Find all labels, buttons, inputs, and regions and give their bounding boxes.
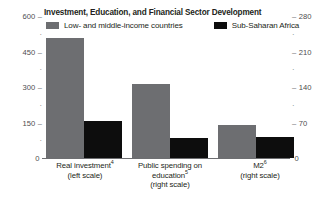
x-label-line2: education bbox=[152, 171, 185, 180]
y-axis-left-label-600: 600 bbox=[23, 12, 36, 21]
tick-dash-icon: – bbox=[292, 48, 296, 57]
y-axis-left-label-150: 150 bbox=[23, 119, 36, 128]
y-axis-left-label-450: 450 bbox=[23, 48, 36, 57]
tick-minor-icon: · bbox=[292, 101, 295, 110]
bar-group3-low-middle-income bbox=[218, 125, 256, 158]
x-axis-label-m2: M26 (right scale) bbox=[214, 161, 306, 180]
bar-group2-sub-saharan-africa bbox=[170, 138, 208, 158]
y-axis-left-tick-150: 150– bbox=[23, 119, 42, 128]
y-axis-left-label-300: 300 bbox=[23, 83, 36, 92]
tick-minor-icon: · bbox=[292, 65, 295, 74]
x-label-line1: M2 bbox=[253, 161, 264, 170]
bar-group3-sub-saharan-africa bbox=[256, 137, 294, 158]
x-axis-label-real-investment: Real investment4 (left scale) bbox=[36, 161, 134, 180]
y-axis-left-tick-450: 450– bbox=[23, 48, 42, 57]
y-axis-right-label-280: 280 bbox=[299, 12, 312, 21]
x-axis-label-public-spending-education: Public spending on education5 (right sca… bbox=[123, 161, 217, 190]
bar-group1-low-middle-income bbox=[46, 38, 84, 158]
chart-container: Investment, Education, and Financial Sec… bbox=[0, 0, 332, 207]
tick-dash-icon: – bbox=[292, 83, 296, 92]
y-axis-right-minortick-105: · bbox=[292, 101, 295, 110]
x-label-line2: (right scale) bbox=[240, 171, 279, 180]
plot-area bbox=[42, 16, 290, 158]
bar-group2-low-middle-income bbox=[132, 84, 170, 158]
x-label-footnote-marker: 6 bbox=[264, 159, 267, 165]
y-axis-right-label-140: 140 bbox=[299, 83, 312, 92]
x-label-line1: Public spending on bbox=[138, 161, 202, 170]
y-axis-right-label-210: 210 bbox=[299, 48, 312, 57]
y-axis-left-tick-600: 600– bbox=[23, 12, 42, 21]
tick-dash-icon: – bbox=[292, 12, 296, 21]
x-label-line3: (right scale) bbox=[150, 180, 189, 189]
y-axis-right-label-70: 70 bbox=[299, 119, 307, 128]
x-label-footnote-marker: 4 bbox=[111, 159, 114, 165]
x-label-line2: (left scale) bbox=[68, 171, 103, 180]
bar-group1-sub-saharan-africa bbox=[84, 121, 122, 158]
tick-minor-icon: · bbox=[292, 30, 295, 39]
y-axis-right-tick-280: –280 bbox=[292, 12, 311, 21]
x-axis-labels: Real investment4 (left scale) Public spe… bbox=[42, 161, 290, 207]
y-axis-right-minortick-175: · bbox=[292, 65, 295, 74]
tick-dash-icon: – bbox=[292, 119, 296, 128]
x-axis-baseline bbox=[42, 158, 290, 159]
x-label-footnote-marker: 5 bbox=[185, 169, 188, 175]
y-axis-right-tick-210: –210 bbox=[292, 48, 311, 57]
y-axis-right-minortick-245: · bbox=[292, 30, 295, 39]
y-axis-right-tick-140: –140 bbox=[292, 83, 311, 92]
x-label-line1: Real investment bbox=[56, 161, 110, 170]
y-axis-left-tick-300: 300– bbox=[23, 83, 42, 92]
y-axis-right-tick-70: –70 bbox=[292, 119, 307, 128]
